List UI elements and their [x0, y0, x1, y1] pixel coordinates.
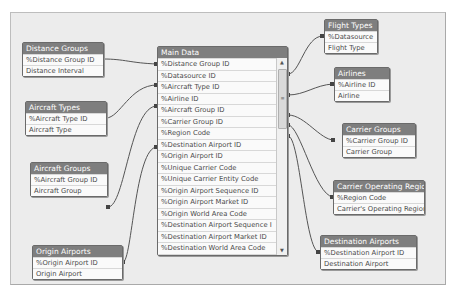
- main-data-field-list: %Distance Group ID %Datasource ID %Aircr…: [158, 58, 277, 255]
- field-row[interactable]: %Aircraft Configuration ID: [158, 254, 277, 256]
- table-title[interactable]: Aircraft Groups: [31, 163, 107, 174]
- field-row[interactable]: Distance Interval: [23, 65, 103, 76]
- field-row[interactable]: %Destination Airport Market ID: [158, 231, 277, 243]
- field-row[interactable]: %Unique Carrier Entity Code: [158, 173, 277, 185]
- table-title[interactable]: Origin Airports: [33, 246, 122, 257]
- field-row[interactable]: %Destination World Area Code: [158, 242, 277, 254]
- field-row[interactable]: %Region Code: [334, 192, 424, 203]
- field-row[interactable]: Flight Type: [325, 42, 377, 53]
- field-row[interactable]: %Region Code: [158, 127, 277, 139]
- table-title[interactable]: Airlines: [335, 68, 389, 79]
- main-data-scrollbar[interactable]: ▲ ≡ ▼: [276, 58, 287, 255]
- field-row[interactable]: %Destination Airport ID: [321, 247, 416, 258]
- table-title[interactable]: Destination Airports: [321, 236, 416, 247]
- field-row[interactable]: %Destination Airport Sequence I: [158, 219, 277, 231]
- field-row[interactable]: %Aircraft Type ID: [158, 81, 277, 93]
- field-row[interactable]: %Airline ID: [335, 79, 389, 90]
- field-row[interactable]: %Distance Group ID: [23, 54, 103, 65]
- field-row[interactable]: %Unique Carrier Code: [158, 162, 277, 174]
- table-title[interactable]: Main Data: [158, 47, 287, 58]
- field-row[interactable]: %Origin World Area Code: [158, 208, 277, 220]
- field-row[interactable]: %Origin Airport ID: [33, 257, 122, 268]
- field-row[interactable]: %Aircraft Type ID: [26, 113, 106, 124]
- field-row[interactable]: %Distance Group ID: [158, 58, 277, 70]
- field-row[interactable]: Aircraft Group: [31, 185, 107, 196]
- table-aircraft-groups[interactable]: Aircraft Groups %Aircraft Group ID Aircr…: [30, 162, 108, 197]
- field-row[interactable]: Origin Airport: [33, 268, 122, 279]
- field-row[interactable]: Carrier's Operating Region: [334, 203, 424, 214]
- field-row[interactable]: %Aircraft Group ID: [31, 174, 107, 185]
- table-title[interactable]: Aircraft Types: [26, 102, 106, 113]
- field-row[interactable]: Carrier Group: [343, 146, 415, 157]
- field-row[interactable]: %Airline ID: [158, 93, 277, 105]
- field-row[interactable]: %Origin Airport ID: [158, 150, 277, 162]
- table-title[interactable]: Distance Groups: [23, 43, 103, 54]
- table-carrier-operating-region[interactable]: Carrier Operating Region %Region Code Ca…: [333, 180, 425, 215]
- field-row[interactable]: %Origin Airport Market ID: [158, 196, 277, 208]
- table-destination-airports[interactable]: Destination Airports %Destination Airpor…: [320, 235, 417, 270]
- field-row[interactable]: %Datasource ID: [158, 70, 277, 82]
- field-row[interactable]: Aircraft Type: [26, 124, 106, 135]
- table-title[interactable]: Carrier Operating Region: [334, 181, 424, 192]
- table-airlines[interactable]: Airlines %Airline ID Airline: [334, 67, 390, 102]
- grip-icon: ≡: [280, 96, 285, 101]
- table-main-data[interactable]: Main Data %Distance Group ID %Datasource…: [157, 46, 288, 256]
- table-aircraft-types[interactable]: Aircraft Types %Aircraft Type ID Aircraf…: [25, 101, 107, 136]
- field-row[interactable]: %Origin Airport Sequence ID: [158, 185, 277, 197]
- table-title[interactable]: Flight Types: [325, 20, 377, 31]
- field-row[interactable]: Airline: [335, 90, 389, 101]
- field-row[interactable]: %Destination Airport ID: [158, 139, 277, 151]
- scrollbar-thumb[interactable]: ≡: [278, 69, 287, 129]
- table-distance-groups[interactable]: Distance Groups %Distance Group ID Dista…: [22, 42, 104, 77]
- field-row[interactable]: %Datasource: [325, 31, 377, 42]
- table-origin-airports[interactable]: Origin Airports %Origin Airport ID Origi…: [32, 245, 123, 280]
- table-carrier-groups[interactable]: Carrier Groups %Carrier Group ID Carrier…: [342, 123, 416, 158]
- field-row[interactable]: %Carrier Group ID: [158, 116, 277, 128]
- field-row[interactable]: Destination Airport: [321, 258, 416, 269]
- scroll-down-arrow-icon[interactable]: ▼: [277, 246, 287, 255]
- table-flight-types[interactable]: Flight Types %Datasource Flight Type: [324, 19, 378, 54]
- scroll-up-arrow-icon[interactable]: ▲: [277, 58, 287, 67]
- field-row[interactable]: %Aircraft Group ID: [158, 104, 277, 116]
- table-title[interactable]: Carrier Groups: [343, 124, 415, 135]
- field-row[interactable]: %Carrier Group ID: [343, 135, 415, 146]
